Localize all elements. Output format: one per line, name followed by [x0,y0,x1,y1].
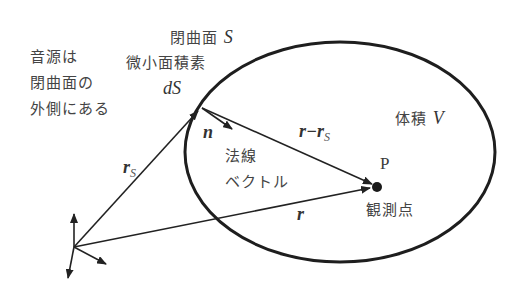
r-minus-rs-sub: S [324,130,330,144]
volume-label: 体積 V [395,108,445,129]
diagram-canvas: 閉曲面 S 微小面積素 dS 音源は 閉曲面の 外側にある 体積 V n 法線 … [0,0,524,293]
volume-symbol: V [433,108,445,128]
r-minus-rs-main: r−r [299,121,324,141]
normal-vector-symbol: n [203,122,213,142]
closed-surface-symbol: S [224,27,234,47]
rs-label: rS [123,157,136,183]
r-label: r [297,204,304,224]
point-p-label: P [380,154,389,174]
coordinate-axes [68,214,106,278]
rs-main: r [123,157,130,177]
surface-element-symbol: dS [163,78,181,98]
source-note-line3: 外側にある [30,99,110,119]
observation-point-dot [372,182,382,192]
normal-vector-line2: ベクトル [225,172,289,192]
normal-vector-line1: 法線 [225,146,257,166]
r-vector [74,188,370,247]
volume-text: 体積 [395,110,427,128]
r-minus-rs-label: r−rS [299,121,330,147]
closed-surface-text: 閉曲面 [170,29,218,47]
rs-sub: S [130,166,136,180]
observation-point-label: 観測点 [366,200,414,220]
source-note-line2: 閉曲面の [30,73,94,93]
closed-surface-label: 閉曲面 S [170,27,234,48]
source-note-line1: 音源は [30,47,78,67]
surface-element-label: 微小面積素 [126,53,206,73]
diagram-svg [0,0,524,293]
